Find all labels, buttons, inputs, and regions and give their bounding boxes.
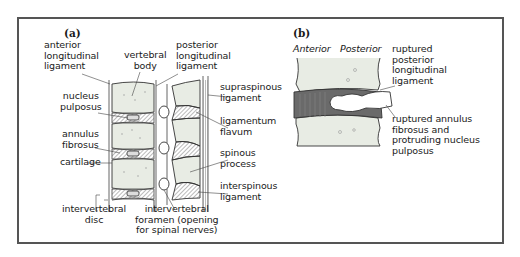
- label-spinous-process: spinous process: [220, 148, 256, 169]
- label-posterior-longitudinal-ligament: posterior longitudinal ligament: [176, 40, 231, 72]
- herniated-disc-illustration: [294, 58, 392, 146]
- label-ruptured-posterior-longitudinal-ligament: ruptured posterior longitudinal ligament: [392, 44, 447, 86]
- vertebral-column-anterior: [109, 80, 156, 212]
- label-cartilage: cartilage: [60, 157, 101, 168]
- vertebral-column-posterior: [159, 76, 208, 212]
- label-ligamentum-flavum: ligamentum flavum: [220, 116, 276, 137]
- label-anterior: Anterior: [293, 44, 331, 55]
- label-posterior: Posterior: [340, 44, 381, 55]
- panel-a-tag: (a): [64, 27, 81, 39]
- label-anterior-longitudinal-ligament: anterior longitudinal ligament: [44, 40, 99, 72]
- label-intervertebral-foramen: intervertebral foramen (opening for spin…: [135, 204, 219, 236]
- label-nucleus-pulposus: nucleus pulposus: [60, 91, 102, 112]
- label-ruptured-annulus-fibrosus: ruptured annulus fibrosus and protruding…: [392, 114, 480, 156]
- label-vertebral-body: vertebral body: [124, 50, 166, 71]
- label-intervertebral-disc: intervertebral disc: [62, 204, 126, 225]
- label-annulus-fibrosus: annulus fibrosus: [62, 129, 99, 150]
- label-supraspinous-ligament: supraspinous ligament: [220, 82, 282, 103]
- label-interspinous-ligament: interspinous ligament: [220, 181, 277, 202]
- panel-b-tag: (b): [293, 27, 310, 39]
